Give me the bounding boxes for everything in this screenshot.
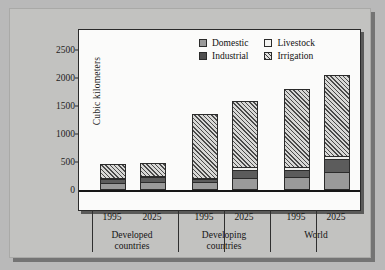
y-tick-label: 1000	[56, 129, 75, 139]
x-tick-label: 2025	[143, 212, 162, 222]
bar-segment-irrigation	[233, 102, 257, 168]
y-tick-label: 1500	[56, 101, 75, 111]
plot-area: Cubic kilometers 05001000150020002500 Do…	[78, 29, 361, 211]
bars-container	[79, 30, 360, 210]
x-tick-label: 2025	[235, 212, 254, 222]
figure-panel: Cubic kilometers 05001000150020002500 Do…	[9, 8, 371, 258]
x-group-label: Developedcountries	[111, 230, 152, 252]
y-tick-label: 0	[70, 185, 75, 195]
bar-segment-industrial	[325, 160, 349, 173]
bar-segment-irrigation	[285, 90, 309, 168]
x-axis-baseline	[79, 190, 360, 192]
bar-world-2025	[324, 75, 350, 190]
x-tick-label: 1995	[287, 212, 306, 222]
bar-developed-countries-2025	[140, 163, 166, 190]
bar-developed-countries-1995	[100, 164, 126, 190]
bar-segment-irrigation	[325, 76, 349, 157]
bar-segment-domestic	[325, 173, 349, 189]
bar-segment-domestic	[141, 183, 165, 189]
x-tick-label: 1995	[195, 212, 214, 222]
x-tick-label: 1995	[103, 212, 122, 222]
x-axis-divider	[178, 210, 179, 252]
bar-developing-countries-2025	[232, 101, 258, 190]
bar-segment-domestic	[233, 179, 257, 189]
x-axis-divider	[224, 210, 225, 252]
y-tick-label: 2500	[56, 45, 75, 55]
x-axis-divider	[316, 210, 317, 252]
bar-segment-irrigation	[193, 115, 217, 179]
x-axis-labels: 199520251995202519952025Developedcountri…	[78, 212, 359, 258]
bar-world-1995	[284, 89, 310, 190]
bar-segment-industrial	[233, 171, 257, 179]
y-tick-label: 2000	[56, 73, 75, 83]
x-tick-label: 2025	[327, 212, 346, 222]
bar-segment-irrigation	[101, 165, 125, 179]
x-axis-divider	[92, 210, 93, 252]
y-tick-label: 500	[61, 157, 75, 167]
bar-segment-domestic	[193, 183, 217, 189]
bar-segment-industrial	[285, 171, 309, 178]
bar-segment-domestic	[285, 178, 309, 189]
x-axis-divider	[270, 210, 271, 252]
chart-figure: Cubic kilometers 05001000150020002500 Do…	[0, 0, 385, 270]
bar-segment-domestic	[101, 184, 125, 189]
bar-developing-countries-1995	[192, 114, 218, 190]
bar-segment-irrigation	[141, 164, 165, 177]
